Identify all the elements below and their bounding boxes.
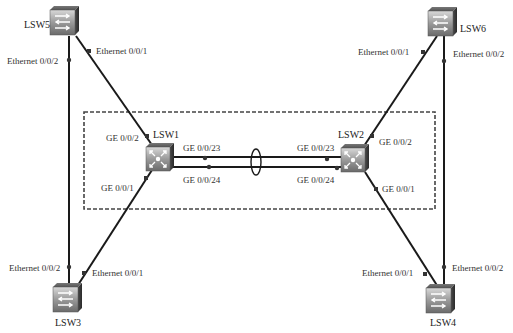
port-label-lsw3-e1: Ethernet 0/0/1 xyxy=(92,268,143,278)
port-label-lsw5-e1: Ethernet 0/0/1 xyxy=(96,46,147,56)
port-label-lsw2-g23: GE 0/0/23 xyxy=(297,143,334,153)
device-label-lsw5: LSW5 xyxy=(24,19,50,30)
port-label-lsw3-e2: Ethernet 0/0/2 xyxy=(9,263,60,273)
device-label-lsw3: LSW3 xyxy=(55,317,81,328)
device-label-lsw1: LSW1 xyxy=(153,129,179,140)
core-switch-icon-lsw1[interactable] xyxy=(146,143,174,171)
core-switch-icon-lsw2[interactable] xyxy=(341,144,369,172)
port-label-lsw2-g1: GE 0/0/1 xyxy=(382,184,415,194)
links xyxy=(69,36,444,287)
port-label-lsw2-g24: GE 0/0/24 xyxy=(297,175,334,185)
device-label-lsw6: LSW6 xyxy=(460,23,486,34)
eth-trunk-ellipse xyxy=(251,149,261,175)
device-label-lsw2: LSW2 xyxy=(338,129,364,140)
port-label-lsw2-g2: GE 0/0/2 xyxy=(379,137,412,147)
port-label-lsw4-e1: Ethernet 0/0/1 xyxy=(362,268,413,278)
port-label-lsw6-e2: Ethernet 0/0/2 xyxy=(453,49,504,59)
port-label-lsw1-g2: GE 0/0/2 xyxy=(106,133,139,143)
port-label-lsw6-e1: Ethernet 0/0/1 xyxy=(358,47,409,57)
port-label-lsw5-e2: Ethernet 0/0/2 xyxy=(7,56,58,66)
device-label-lsw4: LSW4 xyxy=(430,317,456,328)
switch-icon-lsw5[interactable] xyxy=(50,6,79,35)
port-label-lsw1-g24: GE 0/0/24 xyxy=(183,175,220,185)
switch-icon-lsw6[interactable] xyxy=(428,7,457,36)
topology-canvas xyxy=(0,0,513,333)
port-markers xyxy=(67,49,446,276)
port-label-lsw4-e2: Ethernet 0/0/2 xyxy=(452,263,503,273)
port-label-lsw1-g1: GE 0/0/1 xyxy=(101,183,134,193)
switch-icon-lsw4[interactable] xyxy=(426,284,455,313)
switch-icon-lsw3[interactable] xyxy=(53,283,82,312)
port-label-lsw1-g23: GE 0/0/23 xyxy=(183,143,220,153)
